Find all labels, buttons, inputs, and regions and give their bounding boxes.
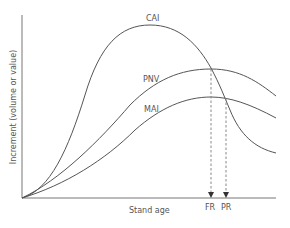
- mai-label: MAI: [144, 105, 159, 114]
- y-axis-label: Increment (volume or value): [9, 50, 18, 164]
- pr-label: PR: [221, 203, 232, 212]
- fr-label: FR: [205, 203, 216, 212]
- cai-label: CAI: [146, 14, 159, 23]
- pnv-curve: [22, 69, 276, 198]
- pr-arrow-icon: [223, 192, 229, 198]
- pnv-label: PNV: [143, 75, 160, 84]
- fr-arrow-icon: [208, 192, 214, 198]
- increment-chart: CAI PNV MAI FR PR Stand age Increment (v…: [0, 0, 290, 228]
- x-axis-label: Stand age: [129, 206, 170, 215]
